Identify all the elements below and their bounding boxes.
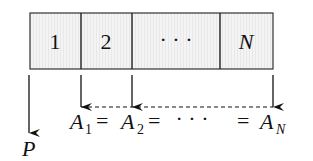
cell-label-n: N [238, 29, 255, 54]
equation-a1: A [68, 109, 84, 134]
equation-an-subscript: N [275, 122, 286, 137]
equation-a1-subscript: 1 [85, 122, 92, 137]
cell-array-diagram: 1 2 · · · N P A 1 = A 2 = · · · = A N [0, 0, 313, 161]
cell-array: 1 2 · · · N [30, 13, 273, 69]
equation-equals-3: = [237, 108, 249, 133]
equation-a2: A [119, 109, 135, 134]
cell-label-ellipsis: · · · [160, 27, 193, 52]
equation-an: A [258, 109, 274, 134]
equation-equals-2: = [148, 108, 160, 133]
equation-ellipsis: · · · [176, 106, 209, 131]
source-label: P [21, 136, 35, 161]
equation-a2-subscript: 2 [137, 122, 144, 137]
cell-label-2: 2 [101, 29, 112, 54]
equation-equals-1: = [96, 108, 108, 133]
equation: A 1 = A 2 = · · · = A N [68, 106, 286, 137]
cell-label-1: 1 [50, 29, 61, 54]
